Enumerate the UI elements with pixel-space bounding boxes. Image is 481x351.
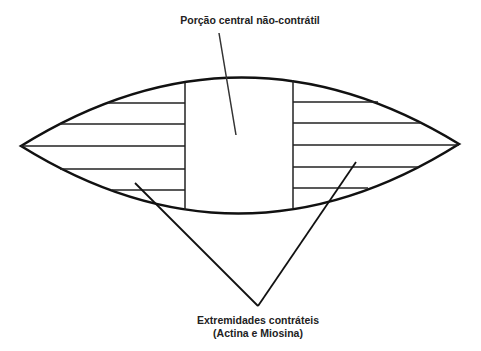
left-striations <box>21 103 185 190</box>
label-actin-myosin: (Actina e Miosina) <box>158 327 358 339</box>
spindle-diagram <box>0 0 481 351</box>
label-contractile-ends: Extremidades contráteis <box>158 314 358 326</box>
pointer-central <box>219 33 236 135</box>
pointer-right-end <box>258 162 356 306</box>
right-striations <box>293 102 459 188</box>
pointer-left-end <box>135 183 258 306</box>
label-central-region: Porção central não-contrátil <box>150 14 350 26</box>
